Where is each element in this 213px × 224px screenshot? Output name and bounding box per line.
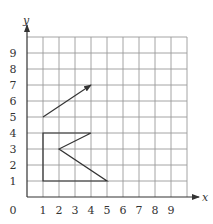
y-tick-label: 1 <box>10 175 17 188</box>
y-tick-label: 6 <box>10 95 17 108</box>
x-tick-label: 6 <box>120 204 127 217</box>
y-tick-label: 3 <box>10 143 17 156</box>
y-tick-label: 5 <box>10 111 17 124</box>
grid-lines <box>27 37 187 197</box>
y-tick-labels: 123456789 <box>10 47 17 188</box>
x-tick-labels: 123456789 <box>40 204 175 217</box>
x-tick-label: 9 <box>168 204 175 217</box>
x-tick-label: 3 <box>72 204 79 217</box>
y-tick-label: 8 <box>10 63 17 76</box>
y-tick-label: 2 <box>10 159 17 172</box>
x-tick-label: 7 <box>136 204 143 217</box>
x-axis-label: x <box>202 191 209 204</box>
y-tick-label: 4 <box>10 127 17 140</box>
x-tick-label: 4 <box>88 204 95 217</box>
y-tick-label: 7 <box>10 79 17 92</box>
x-tick-label: 1 <box>40 204 47 217</box>
x-tick-label: 5 <box>104 204 111 217</box>
x-tick-label: 8 <box>152 204 159 217</box>
origin-label: 0 <box>10 204 17 217</box>
y-tick-label: 9 <box>10 47 17 60</box>
x-tick-label: 2 <box>56 204 63 217</box>
y-axis-label: y <box>22 14 30 27</box>
coordinate-grid: 123456789 123456789 x y 0 <box>0 0 213 224</box>
